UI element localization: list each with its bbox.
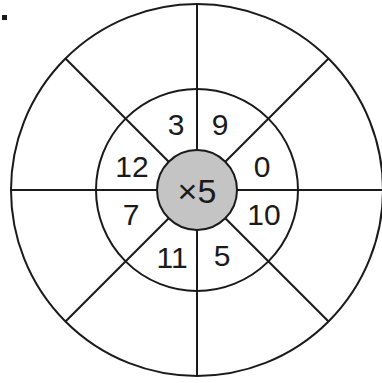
spoke-line — [65, 218, 168, 321]
inner-number-right-upper: 0 — [254, 150, 271, 183]
center-multiplier-label: ×5 — [178, 172, 217, 210]
spoke-line — [225, 58, 328, 161]
inner-number-bottom-right: 5 — [214, 239, 231, 272]
inner-number-left-upper: 12 — [115, 150, 148, 183]
spoke-line — [225, 218, 328, 321]
inner-number-top-left: 3 — [168, 108, 185, 141]
spoke-line — [65, 58, 168, 161]
inner-number-right-lower: 10 — [247, 198, 280, 231]
inner-number-left-lower: 7 — [123, 198, 140, 231]
inner-number-bottom-left: 11 — [156, 241, 187, 274]
multiplication-wheel: ×5 3 9 0 10 5 11 7 12 — [0, 0, 382, 383]
inner-number-top-right: 9 — [212, 108, 229, 141]
